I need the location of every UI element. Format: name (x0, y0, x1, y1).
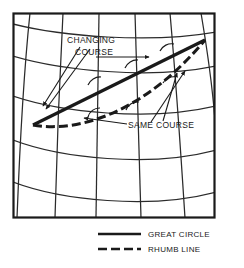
diagram-canvas: CHANGING COURSE SAME COURSE GREAT CIRCLE… (0, 0, 244, 268)
map-panel: CHANGING COURSE SAME COURSE (13, 13, 216, 218)
same-course-label: SAME COURSE (128, 120, 194, 130)
legend-item-great-circle: GREAT CIRCLE (98, 230, 210, 239)
changing-course-label-line2: COURSE (75, 47, 113, 57)
legend-label-great-circle: GREAT CIRCLE (148, 230, 210, 239)
figure-root: CHANGING COURSE SAME COURSE GREAT CIRCLE… (0, 0, 244, 268)
legend-item-rhumb-line: RHUMB LINE (98, 245, 200, 254)
legend: GREAT CIRCLE RHUMB LINE (98, 230, 210, 254)
changing-course-label-line1: CHANGING (67, 35, 115, 45)
legend-label-rhumb-line: RHUMB LINE (148, 245, 200, 254)
